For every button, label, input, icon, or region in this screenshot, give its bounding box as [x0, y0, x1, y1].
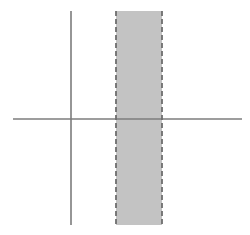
- coordinate-axes-figure: [0, 0, 250, 235]
- shaded-vertical-strip: [116, 11, 162, 225]
- figure-root: [0, 0, 250, 235]
